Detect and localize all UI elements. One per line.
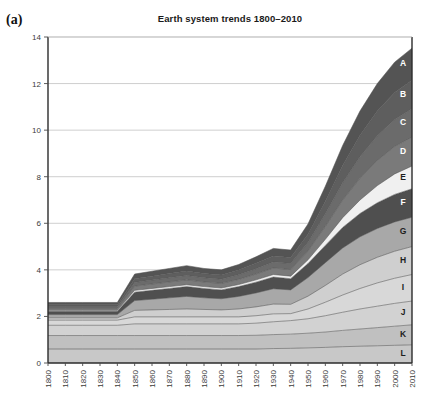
x-tick-label: 1800 <box>44 369 53 387</box>
series-areas-group <box>48 48 412 363</box>
x-tick-label: 1880 <box>183 369 192 387</box>
series-label-b: B <box>400 89 406 99</box>
series-label-k: K <box>400 329 407 339</box>
x-tick-label: 1860 <box>148 369 157 387</box>
series-label-a: A <box>400 58 406 68</box>
series-label-j: J <box>401 307 406 317</box>
x-tick-label: 1830 <box>96 369 105 387</box>
x-tick-label: 1990 <box>373 369 382 387</box>
x-tick-label: 1850 <box>131 369 140 387</box>
x-tick-label: 1960 <box>321 369 330 387</box>
series-label-g: G <box>400 226 407 236</box>
series-label-e: E <box>400 172 406 182</box>
y-tick-label: 2 <box>37 312 42 321</box>
stacked-area-chart: 02468101214 1800181018201830184018501860… <box>0 0 432 401</box>
x-tick-label: 1930 <box>269 369 278 387</box>
x-tick-label: 1820 <box>79 369 88 387</box>
y-tick-label: 0 <box>37 359 42 368</box>
series-label-c: C <box>400 117 406 127</box>
x-tick-label: 1890 <box>200 369 209 387</box>
series-label-i: I <box>402 282 404 292</box>
series-label-h: H <box>400 255 406 265</box>
x-tick-label: 1950 <box>304 369 313 387</box>
y-tick-label: 4 <box>37 266 42 275</box>
x-tick-label: 2010 <box>408 369 417 387</box>
y-tick-label: 6 <box>37 219 42 228</box>
x-tick-label: 1870 <box>165 369 174 387</box>
x-tick-label: 1980 <box>356 369 365 387</box>
x-tick-label: 1910 <box>235 369 244 387</box>
x-tick-label: 1920 <box>252 369 261 387</box>
y-tick-labels-group: 02468101214 <box>32 33 48 368</box>
x-tick-label: 2000 <box>391 369 400 387</box>
x-tick-label: 1900 <box>217 369 226 387</box>
series-label-d: D <box>400 146 406 156</box>
x-tick-label: 1940 <box>287 369 296 387</box>
x-tick-label: 1970 <box>339 369 348 387</box>
y-tick-label: 8 <box>37 173 42 182</box>
x-tick-label: 1840 <box>113 369 122 387</box>
series-label-l: L <box>400 348 405 358</box>
x-tick-label: 1810 <box>61 369 70 387</box>
y-tick-label: 14 <box>32 33 41 42</box>
x-tick-labels-group: 1800181018201830184018501860187018801890… <box>44 363 417 388</box>
y-tick-label: 12 <box>32 80 41 89</box>
series-label-f: F <box>400 197 405 207</box>
chart-figure: (a) Earth system trends 1800–2010 024681… <box>0 0 432 401</box>
y-tick-label: 10 <box>32 126 41 135</box>
